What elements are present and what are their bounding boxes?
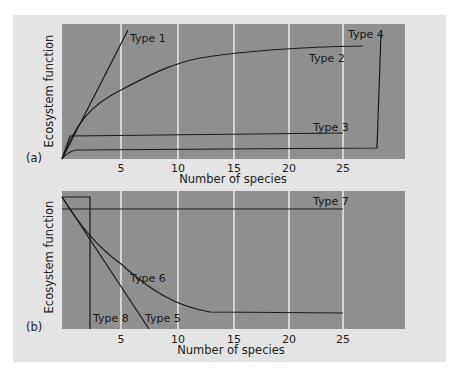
panel-tag-a: (a): [26, 151, 42, 165]
x-axis-title-a: Number of species: [179, 172, 287, 186]
figure-svg: Type 1 Type 2 Type 3 Type 4 5 10 15 20 2…: [0, 0, 461, 377]
xtick-a-25: 25: [336, 162, 350, 175]
label-type-2: Type 2: [308, 52, 345, 65]
xtick-b-25: 25: [336, 333, 350, 346]
label-type-8: Type 8: [92, 312, 129, 325]
chart-a: Type 1 Type 2 Type 3 Type 4 5 10 15 20 2…: [26, 24, 405, 186]
label-type-4: Type 4: [347, 28, 384, 41]
label-type-3: Type 3: [312, 121, 349, 134]
panel-tag-b: (b): [26, 320, 42, 334]
chart-b: Type 6 Type 5 Type 7 Type 8 5 10 15 20 2…: [26, 191, 405, 357]
label-type-1: Type 1: [129, 32, 166, 45]
xtick-b-5: 5: [118, 333, 125, 346]
label-type-6: Type 6: [129, 272, 166, 285]
xtick-a-5: 5: [118, 162, 125, 175]
y-axis-title-a: Ecosystem function: [42, 35, 56, 148]
x-axis-title-b: Number of species: [177, 343, 285, 357]
label-type-7: Type 7: [312, 195, 349, 208]
label-type-5: Type 5: [144, 312, 181, 325]
y-axis-title-b: Ecosystem function: [42, 201, 56, 314]
